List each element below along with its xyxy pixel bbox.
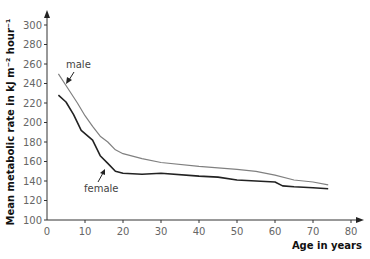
y-tick-label: 200	[23, 117, 42, 128]
y-tick-label: 120	[23, 195, 42, 206]
x-tick-label: 50	[231, 226, 244, 237]
y-tick-label: 100	[23, 215, 42, 226]
x-tick-label: 20	[117, 226, 130, 237]
x-tick-label: 70	[307, 226, 320, 237]
series-lines	[58, 74, 328, 189]
x-tick-label: 30	[155, 226, 168, 237]
male-arrowhead-icon	[66, 77, 72, 84]
y-axis-arrow-icon	[44, 10, 50, 18]
x-axis-title: Age in years	[292, 240, 362, 251]
female-line	[58, 95, 328, 189]
x-tick-label: 10	[79, 226, 92, 237]
y-tick-label: 160	[23, 156, 42, 167]
male-label: male	[66, 59, 91, 70]
y-tick-label: 260	[23, 59, 42, 70]
y-tick-label: 140	[23, 176, 42, 187]
x-tick-label: 60	[269, 226, 282, 237]
metabolic-rate-chart: 1001201401601802002202402602803000102030…	[0, 0, 370, 259]
axes: 1001201401601802002202402602803000102030…	[23, 10, 364, 237]
x-tick-label: 80	[345, 226, 358, 237]
female-arrow-icon	[98, 173, 103, 182]
male-line	[58, 74, 328, 185]
y-axis-title: Mean metabolic rate in kJ m⁻² hour⁻¹	[5, 19, 16, 226]
y-tick-label: 220	[23, 98, 42, 109]
x-tick-label: 0	[44, 226, 50, 237]
x-tick-label: 40	[193, 226, 206, 237]
x-axis-arrow-icon	[356, 217, 364, 223]
y-tick-label: 300	[23, 20, 42, 31]
y-tick-label: 280	[23, 39, 42, 50]
y-tick-label: 240	[23, 78, 42, 89]
y-tick-label: 180	[23, 137, 42, 148]
female-label: female	[84, 183, 118, 194]
